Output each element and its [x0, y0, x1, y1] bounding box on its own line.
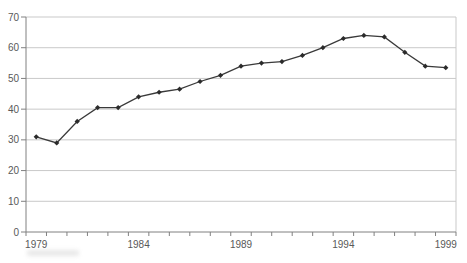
- data-point-1988: [218, 73, 223, 78]
- y-tick-label: 20: [8, 165, 20, 176]
- data-point-1992: [300, 53, 305, 58]
- y-tick-label: 70: [8, 12, 20, 23]
- data-point-1994: [341, 36, 346, 41]
- data-point-1987: [197, 79, 202, 84]
- y-tick-label: 60: [8, 42, 20, 53]
- data-point-1979: [34, 134, 39, 139]
- x-tick-label: 1979: [25, 239, 48, 250]
- line-chart: 01020304050607019791984198919941999: [0, 0, 467, 263]
- data-point-1995: [361, 33, 366, 38]
- y-tick-label: 50: [8, 73, 20, 84]
- y-tick-label: 40: [8, 104, 20, 115]
- data-line: [36, 35, 446, 143]
- data-point-1986: [177, 87, 182, 92]
- data-point-1990: [259, 60, 264, 65]
- data-point-1991: [279, 59, 284, 64]
- cropped-caption-artifact: [27, 250, 79, 256]
- data-point-1984: [136, 94, 141, 99]
- y-tick-label: 30: [8, 134, 20, 145]
- x-tick-label: 1994: [332, 239, 355, 250]
- y-tick-label: 10: [8, 196, 20, 207]
- x-tick-label: 1989: [230, 239, 253, 250]
- data-point-1985: [156, 90, 161, 95]
- x-tick-label: 1984: [127, 239, 150, 250]
- x-tick-label: 1999: [435, 239, 458, 250]
- chart-screenshot: 01020304050607019791984198919941999: [0, 0, 467, 263]
- data-point-1999: [443, 65, 448, 70]
- data-point-1989: [238, 64, 243, 69]
- data-point-1993: [320, 45, 325, 50]
- y-tick-label: 0: [13, 227, 19, 238]
